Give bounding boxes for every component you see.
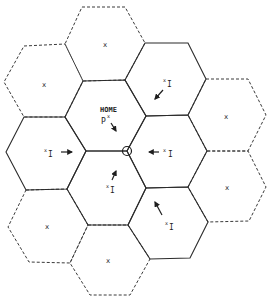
home-point-sup: x bbox=[107, 113, 110, 119]
interferer-left-label: I bbox=[48, 150, 53, 159]
interferer-upper-right-arrow-icon bbox=[155, 90, 163, 99]
cell-left bbox=[6, 117, 86, 190]
interferer-lower-right-label: I bbox=[169, 223, 174, 232]
label-lower-left-cell: x bbox=[45, 223, 49, 231]
interferer-upper-right-sup: x bbox=[163, 77, 166, 83]
label-bottom-cell: x bbox=[106, 257, 110, 265]
label-right-lower-cell: x bbox=[225, 184, 229, 192]
cell-right-center bbox=[127, 115, 207, 188]
interferer-lower-center-sup: x bbox=[106, 183, 109, 189]
interferer-lower-right-arrow-icon bbox=[155, 202, 162, 215]
hex-cell-diagram: x x x x x x HOME P x x I x I x I x I x I bbox=[0, 0, 267, 297]
interferer-upper-right-label: I bbox=[167, 80, 172, 89]
interferer-lower-right-sup: x bbox=[165, 220, 168, 226]
cell-home bbox=[65, 80, 146, 151]
home-arrow-icon bbox=[111, 123, 116, 131]
label-upper-left-cell: x bbox=[42, 81, 46, 89]
interferer-right-center-label: I bbox=[168, 150, 173, 159]
interferer-right-center-sup: x bbox=[163, 147, 166, 153]
label-top-cell: x bbox=[103, 41, 107, 49]
interferer-lower-center-label: I bbox=[110, 186, 115, 195]
interferer-lower-center-arrow-icon bbox=[112, 171, 116, 180]
interferer-left-sup: x bbox=[44, 147, 47, 153]
label-right-upper-cell: x bbox=[224, 113, 228, 121]
home-point-label: P bbox=[101, 117, 106, 126]
